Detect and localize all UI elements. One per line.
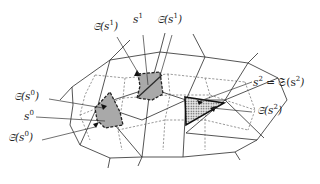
label-close: ) — [178, 13, 182, 25]
label-sup: 1 — [138, 12, 142, 20]
label-dot-frak-s1: 𝔖̇(s1) — [93, 20, 118, 32]
label-close: ) — [278, 104, 282, 116]
label-close: ) — [29, 131, 33, 143]
cell-s0 — [95, 92, 123, 128]
primal-mesh — [60, 33, 287, 168]
label-s2-equals-frak-s2: s2 = 𝔖(s2) — [253, 76, 304, 88]
label-base: 𝔖(s — [157, 13, 174, 25]
label-dot-frak-s0: 𝔖̇(s0) — [8, 131, 33, 143]
mesh-diagram — [0, 0, 320, 184]
label-mid: = 𝔖(s — [263, 76, 296, 88]
label-base: 𝔖̇(s — [257, 104, 274, 116]
label-frak-s0: 𝔖(s0) — [14, 90, 39, 102]
label-close: ) — [114, 20, 118, 32]
label-frak-s1: 𝔖(s1) — [157, 13, 182, 25]
label-close: ) — [300, 76, 304, 88]
cell-s2 — [185, 97, 224, 125]
label-base: 𝔖̇(s — [8, 131, 25, 143]
label-base: 𝔖̇(s — [93, 20, 110, 32]
cell-s1 — [137, 72, 163, 100]
label-s0: s0 — [24, 110, 34, 122]
label-close: ) — [35, 90, 39, 102]
label-sup: 0 — [29, 109, 33, 117]
label-base: 𝔖(s — [14, 90, 31, 102]
label-dot-frak-s2: 𝔖̇(s2) — [257, 104, 282, 116]
label-s1: s1 — [133, 13, 143, 25]
